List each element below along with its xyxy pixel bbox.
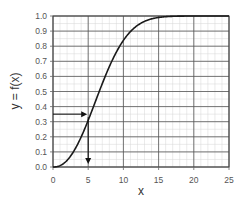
y-tick-label: 0.6 [35,71,47,81]
y-tick-label: 1.0 [35,11,47,21]
x-tick-label: 5 [86,175,91,185]
x-tick-label: 10 [119,175,129,185]
x-axis-label: x [138,184,144,198]
cdf-chart: 0.00.10.20.30.40.50.60.70.80.91.0 051015… [0,0,244,212]
y-tick-label: 0.1 [35,147,47,157]
y-tick-label: 0.7 [35,56,47,66]
y-tick-label: 0.8 [35,41,47,51]
x-tick-label: 20 [189,175,199,185]
annotation-arrows [53,111,91,164]
y-tick-label: 0.9 [35,26,47,36]
x-tick-label: 25 [224,175,234,185]
y-tick-label: 0.5 [35,87,47,97]
y-axis-label: y = f(x) [8,72,22,109]
y-tick-label: 0.4 [35,102,47,112]
y-tick-label: 0.3 [35,117,47,127]
y-tick-label: 0.2 [35,132,47,142]
x-tick-label: 15 [154,175,164,185]
y-tick-label: 0.0 [35,162,47,172]
y-axis-ticks: 0.00.10.20.30.40.50.60.70.80.91.0 [35,11,53,172]
x-tick-label: 0 [51,175,56,185]
x-axis-ticks: 0510152025 [51,167,234,185]
